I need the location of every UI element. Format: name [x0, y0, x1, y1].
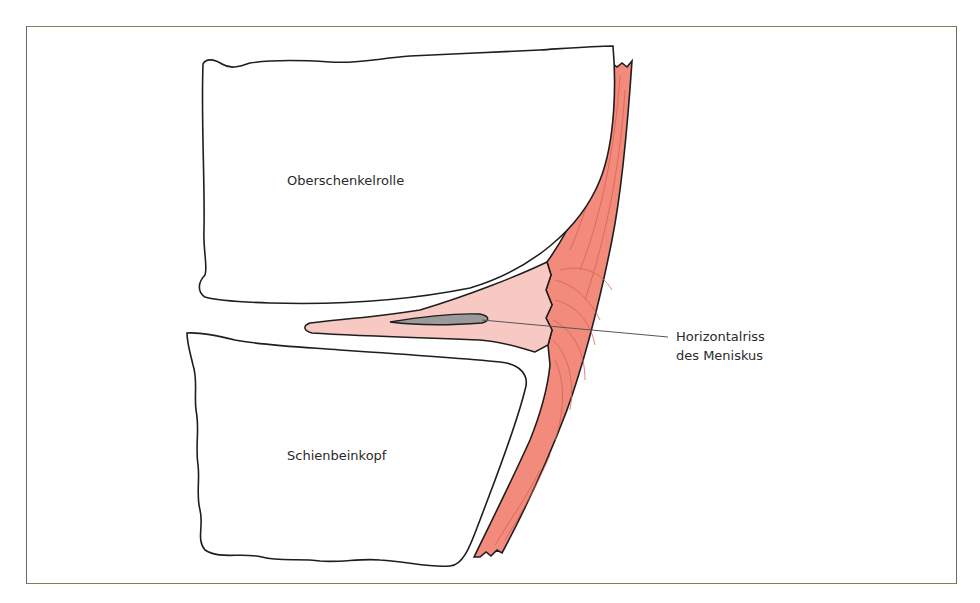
label-tear-line2: des Meniskus: [676, 346, 765, 365]
label-tear-line1: Horizontalriss: [676, 327, 765, 346]
label-tibia: Schienbeinkopf: [287, 448, 386, 463]
knee-meniscus-diagram: [0, 0, 980, 603]
label-horizontal-tear: Horizontalriss des Meniskus: [676, 327, 765, 365]
label-femur: Oberschenkelrolle: [287, 173, 404, 188]
